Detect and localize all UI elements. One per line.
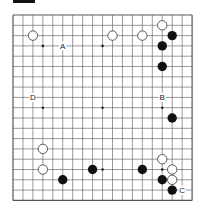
- point-label-d: D: [30, 93, 36, 102]
- black-stone: [168, 31, 177, 40]
- black-stone: [158, 41, 167, 50]
- star-point: [161, 168, 164, 171]
- white-stone: [158, 21, 167, 30]
- white-stone: [138, 31, 147, 40]
- point-label-a: A: [60, 42, 66, 51]
- star-point: [42, 45, 45, 48]
- black-stone: [168, 185, 177, 194]
- black-stone: [158, 175, 167, 184]
- star-point: [101, 45, 104, 48]
- go-board: ABCD: [0, 0, 201, 213]
- white-stone: [168, 165, 177, 174]
- white-stone: [28, 31, 37, 40]
- white-stone: [158, 155, 167, 164]
- star-point: [42, 106, 45, 109]
- star-point: [101, 168, 104, 171]
- star-point: [101, 106, 104, 109]
- white-stone: [108, 31, 117, 40]
- star-point: [161, 106, 164, 109]
- point-label-b: B: [160, 93, 165, 102]
- point-label-c: C: [179, 186, 185, 195]
- black-stone: [158, 62, 167, 71]
- white-stone: [38, 165, 47, 174]
- white-stone: [168, 175, 177, 184]
- black-stone: [58, 175, 67, 184]
- black-stone: [138, 165, 147, 174]
- black-stone: [168, 113, 177, 122]
- white-stone: [38, 144, 47, 153]
- black-stone: [88, 165, 97, 174]
